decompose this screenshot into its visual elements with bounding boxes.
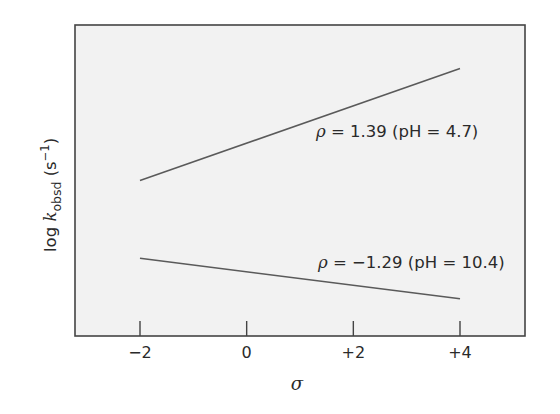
x-tick-label: +4 [448, 343, 472, 362]
x-axis-tick-labels: −20+2+4 [128, 343, 472, 362]
x-tick-label: 0 [242, 343, 252, 362]
annotation-ph-4-7: ρ = 1.39 (pH = 4.7) [315, 122, 478, 141]
annotation-text: = −1.29 (pH = 10.4) [328, 253, 505, 272]
x-axis-label: σ [291, 373, 304, 394]
ylabel-unit-close: ) [41, 138, 60, 144]
x-tick-label: −2 [128, 343, 152, 362]
ylabel-k: k [41, 212, 60, 222]
rho-symbol: ρ [317, 253, 328, 272]
annotation-ph-10-4: ρ = −1.29 (pH = 10.4) [317, 253, 505, 272]
ylabel-prefix: log [41, 222, 60, 252]
ylabel-unit-open: (s [41, 161, 60, 181]
x-tick-label: +2 [342, 343, 366, 362]
hammett-plot: −20+2+4 ρ = 1.39 (pH = 4.7) ρ = −1.29 (p… [0, 0, 560, 414]
rho-symbol: ρ [315, 122, 326, 141]
annotation-text: = 1.39 (pH = 4.7) [326, 122, 479, 141]
ylabel-subscript: obsd [49, 182, 64, 212]
ylabel-superscript: −1 [38, 144, 52, 161]
y-axis-label: log kobsd (s−1) [38, 138, 64, 252]
plot-area [75, 25, 525, 336]
